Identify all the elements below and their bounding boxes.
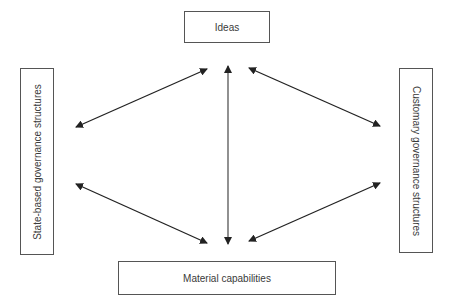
arrow-ideas-state: [76, 69, 207, 127]
node-customary-governance-label: Customary governance structures: [411, 85, 422, 235]
node-customary-governance: Customary governance structures: [399, 68, 433, 253]
arrow-ideas-customary: [249, 68, 380, 126]
arrow-customary-material: [249, 183, 380, 241]
node-material-capabilities-label: Material capabilities: [183, 273, 271, 284]
node-state-based-governance-label: State-based governance structures: [32, 84, 43, 240]
node-ideas-label: Ideas: [215, 22, 239, 33]
arrow-state-material: [76, 184, 207, 243]
node-material-capabilities: Material capabilities: [118, 261, 336, 295]
node-state-based-governance: State-based governance structures: [20, 68, 54, 255]
node-ideas: Ideas: [184, 11, 270, 43]
